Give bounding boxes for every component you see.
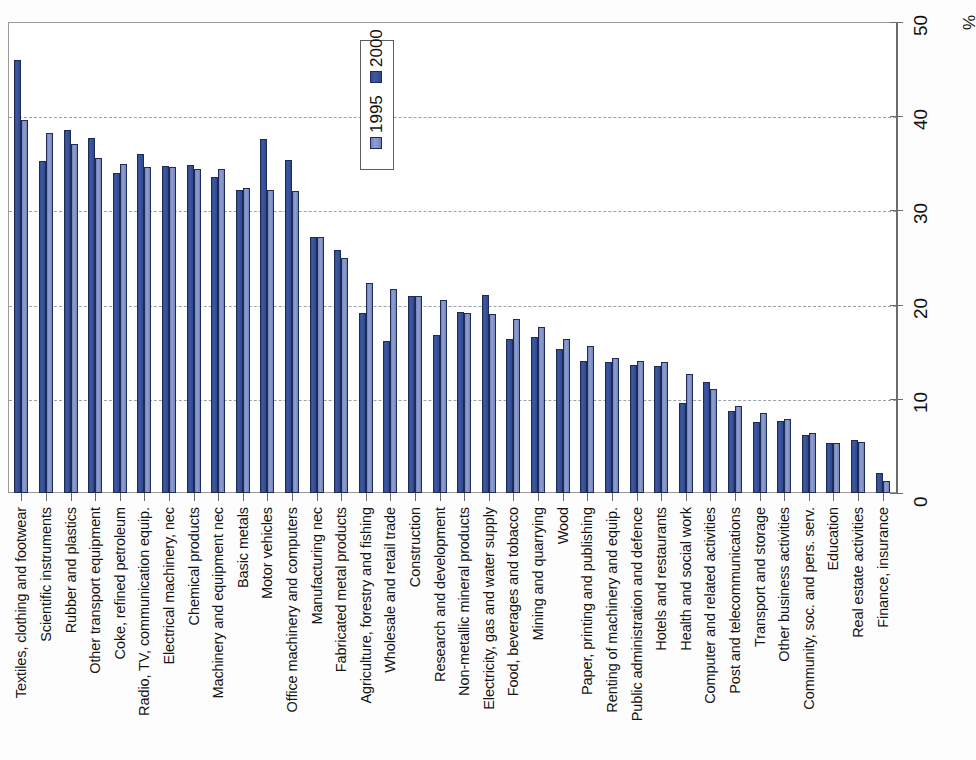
- bar-group: [329, 22, 354, 493]
- category-label-cell: Mining and quarrying: [526, 505, 551, 760]
- value-axis-tick-label: 10: [910, 369, 932, 413]
- bar-group: [157, 22, 182, 493]
- bar-2000: [833, 443, 840, 493]
- bar-1995: [408, 296, 415, 493]
- bar-1995: [187, 165, 194, 493]
- bar-2000: [809, 433, 816, 493]
- bar-2000: [194, 169, 201, 493]
- category-label: Radio, TV, communication equip.: [136, 507, 152, 716]
- bar-2000: [46, 133, 53, 493]
- category-tick: [575, 493, 600, 502]
- category-label-cell: Chemical products: [181, 505, 206, 760]
- bar-2000: [563, 339, 570, 493]
- bar-group: [600, 22, 625, 493]
- bar-group: [649, 22, 674, 493]
- bar-1995: [482, 295, 489, 493]
- category-tick: [550, 493, 575, 502]
- category-label-cell: Scientific instruments: [34, 505, 59, 760]
- category-label-cell: Finance, insurance: [870, 505, 895, 760]
- category-tick: [870, 493, 895, 502]
- bar-1995: [506, 339, 513, 493]
- bar-1995: [310, 237, 317, 493]
- bar-1995: [334, 250, 341, 493]
- chart-figure: 01020304050 % Textiles, clothing and foo…: [0, 0, 976, 760]
- value-axis-tick-label: 0: [910, 463, 932, 507]
- category-label-cell: Office machinery and computers: [280, 505, 305, 760]
- category-axis-ticks: [9, 493, 895, 502]
- bar-2000: [21, 120, 28, 493]
- category-label-cell: Other business activities: [772, 505, 797, 760]
- bar-group: [280, 22, 305, 493]
- bar-1995: [433, 335, 440, 493]
- category-label: Motor vehicles: [259, 507, 275, 599]
- category-label: Manufacturing nec: [309, 507, 325, 625]
- bar-1995: [851, 440, 858, 493]
- bar-group: [403, 22, 428, 493]
- category-label-cell: Paper, printing and publishing: [575, 505, 600, 760]
- category-label: Wood: [555, 507, 571, 544]
- bar-group: [304, 22, 329, 493]
- bar-group: [34, 22, 59, 493]
- legend-swatch-1995: [370, 137, 382, 149]
- category-label: Hotels and restaurants: [653, 507, 669, 651]
- category-label-cell: Transport and storage: [747, 505, 772, 760]
- category-tick: [34, 493, 59, 502]
- bar-2000: [784, 419, 791, 493]
- bar-1995: [728, 411, 735, 493]
- bar-1995: [260, 139, 267, 493]
- bar-2000: [243, 188, 250, 493]
- category-label-cell: Basic metals: [230, 505, 255, 760]
- bar-2000: [883, 481, 890, 493]
- category-tick: [58, 493, 83, 502]
- category-label-cell: Research and development: [427, 505, 452, 760]
- category-tick: [427, 493, 452, 502]
- legend-label-2000: 2000: [367, 29, 387, 67]
- value-axis-tick: [890, 210, 903, 211]
- category-label: Post and telecommunications: [727, 507, 743, 694]
- bar-2000: [390, 289, 397, 493]
- bar-1995: [654, 366, 661, 493]
- category-label: Office machinery and computers: [284, 507, 300, 712]
- value-axis-tick-label: 50: [910, 0, 932, 36]
- bar-2000: [415, 296, 422, 493]
- category-tick: [181, 493, 206, 502]
- category-label-cell: Rubber and plastics: [58, 505, 83, 760]
- bar-2000: [735, 406, 742, 493]
- bar-2000: [169, 167, 176, 493]
- bar-1995: [359, 313, 366, 493]
- category-label: Transport and storage: [752, 507, 768, 647]
- category-label: Finance, insurance: [875, 507, 891, 628]
- category-tick: [501, 493, 526, 502]
- category-tick: [206, 493, 231, 502]
- bar-2000: [440, 300, 447, 493]
- bar-2000: [858, 442, 865, 493]
- category-label-cell: Coke, refined petroleum: [107, 505, 132, 760]
- bar-group: [846, 22, 871, 493]
- category-tick: [9, 493, 34, 502]
- category-tick: [157, 493, 182, 502]
- bar-group: [526, 22, 551, 493]
- bar-1995: [88, 138, 95, 493]
- category-label-cell: Textiles, clothing and footwear: [9, 505, 34, 760]
- bar-1995: [14, 60, 21, 493]
- value-axis-tick-label: 30: [910, 180, 932, 224]
- category-label-cell: Community, soc. and pers. serv.: [797, 505, 822, 760]
- category-label: Community, soc. and pers. serv.: [801, 507, 817, 710]
- category-label: Coke, refined petroleum: [112, 507, 128, 659]
- category-tick: [329, 493, 354, 502]
- bar-2000: [587, 346, 594, 493]
- bar-2000: [760, 413, 767, 493]
- bar-1995: [630, 365, 637, 493]
- category-label: Other business activities: [776, 507, 792, 662]
- bar-1995: [826, 443, 833, 493]
- bar-1995: [777, 421, 784, 493]
- category-label: Machinery and equipment nec: [210, 507, 226, 699]
- value-axis-tick: [890, 116, 903, 117]
- bar-group: [673, 22, 698, 493]
- category-label: Electrical machinery, nec: [161, 507, 177, 665]
- category-label-cell: Agriculture, forestry and fishing: [354, 505, 379, 760]
- category-tick: [83, 493, 108, 502]
- category-label-cell: Radio, TV, communication equip.: [132, 505, 157, 760]
- category-label-cell: Computer and related activities: [698, 505, 723, 760]
- category-label: Education: [825, 507, 841, 571]
